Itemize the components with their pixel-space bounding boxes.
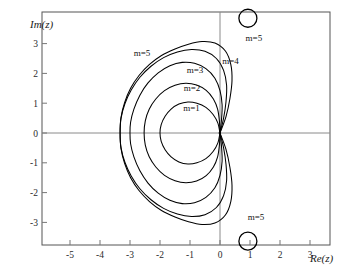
x-tick-label: 2 <box>278 250 283 260</box>
x-tick-label: -1 <box>186 250 194 260</box>
x-tick-label: -3 <box>126 250 134 260</box>
curve-label-m5: m=5 <box>134 48 151 58</box>
complex-plane-contour-figure: -5-4-3-2-10123 3210-1-2-3 m=1m=2m=3m=4m=… <box>0 0 358 280</box>
y-axis-title: Im(z) <box>29 18 54 31</box>
circle-label-2: m=5 <box>248 212 265 222</box>
y-tick-label: 1 <box>33 99 38 109</box>
y-tick-label: -2 <box>30 188 38 198</box>
curve-label-m1: m=1 <box>183 103 200 113</box>
y-tick-label: -3 <box>30 218 38 228</box>
circle-label-1: m=5 <box>246 33 263 43</box>
curve-label-m4: m=4 <box>222 56 239 66</box>
x-tick-label: 0 <box>218 250 223 260</box>
y-tick-label: 0 <box>33 129 38 139</box>
isolated-circle-2 <box>239 232 257 250</box>
curve-label-m2: m=2 <box>184 83 201 93</box>
x-axis-title: Re(z) <box>309 252 334 265</box>
plot-frame <box>42 12 330 245</box>
axis-lines <box>42 12 330 245</box>
x-tick-label: -2 <box>156 250 164 260</box>
x-tick-label: 1 <box>248 250 253 260</box>
x-tick-label: -4 <box>96 250 104 260</box>
curve-label-m3: m=3 <box>187 65 204 75</box>
y-axis-ticks: 3210-1-2-3 <box>30 39 47 228</box>
x-tick-label: -5 <box>66 250 74 260</box>
y-tick-label: -1 <box>30 158 38 168</box>
y-tick-label: 3 <box>33 39 38 49</box>
x-axis-ticks: -5-4-3-2-10123 <box>66 240 313 260</box>
plot-canvas: -5-4-3-2-10123 3210-1-2-3 m=1m=2m=3m=4m=… <box>0 0 358 280</box>
y-tick-label: 2 <box>33 69 38 79</box>
